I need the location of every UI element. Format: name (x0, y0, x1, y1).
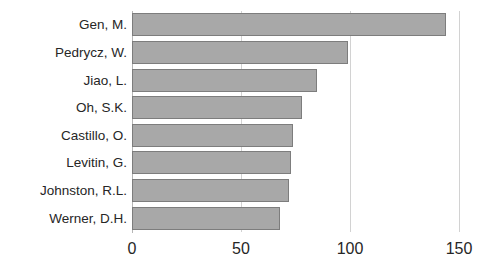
value-axis-tick-labels: 050100150 (0, 238, 497, 266)
category-label: Pedrycz, W. (4, 41, 132, 64)
tick-label-50: 50 (211, 238, 271, 260)
tick-label-0: 0 (102, 238, 162, 260)
tick-label-100: 100 (320, 238, 380, 260)
category-label: Gen, M. (4, 13, 132, 36)
bar[interactable] (132, 41, 348, 64)
bar-row (132, 151, 459, 174)
bar[interactable] (132, 69, 317, 92)
plot-area (132, 11, 459, 232)
bar-row (132, 41, 459, 64)
bar-row (132, 124, 459, 147)
gridline-150 (459, 11, 460, 232)
bar[interactable] (132, 96, 302, 119)
category-label: Johnston, R.L. (4, 179, 132, 202)
bar[interactable] (132, 151, 291, 174)
bar[interactable] (132, 179, 289, 202)
category-label: Werner, D.H. (4, 207, 132, 230)
tick-label-150: 150 (429, 238, 489, 260)
bar[interactable] (132, 207, 280, 230)
bar-row (132, 69, 459, 92)
bar-row (132, 96, 459, 119)
category-axis-labels: Gen, M.Pedrycz, W.Jiao, L.Oh, S.K.Castil… (0, 11, 132, 232)
category-label: Jiao, L. (4, 69, 132, 92)
bar[interactable] (132, 13, 446, 36)
category-label: Levitin, G. (4, 151, 132, 174)
bar-row (132, 13, 459, 36)
category-label: Castillo, O. (4, 124, 132, 147)
bar-row (132, 207, 459, 230)
bar-chart: Gen, M.Pedrycz, W.Jiao, L.Oh, S.K.Castil… (0, 0, 497, 276)
bar-row (132, 179, 459, 202)
bar[interactable] (132, 124, 293, 147)
category-label: Oh, S.K. (4, 96, 132, 119)
